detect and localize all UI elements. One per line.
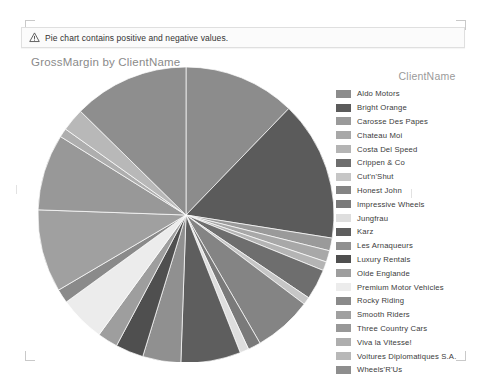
legend-item-label: Honest John xyxy=(357,186,402,195)
legend-swatch-icon xyxy=(336,117,351,125)
pie-chart[interactable] xyxy=(36,66,336,362)
legend-item-label: Les Arnaqueurs xyxy=(357,241,413,250)
legend-item[interactable]: Cut'n'Shut xyxy=(336,170,488,184)
legend-list: Aldo MotorsBright OrangeCarosse Des Pape… xyxy=(336,87,488,377)
legend-swatch-icon xyxy=(336,297,351,305)
legend-swatch-icon xyxy=(336,90,351,98)
legend-swatch-icon xyxy=(336,131,351,139)
legend-item[interactable]: Luxury Rentals xyxy=(336,253,488,267)
legend-swatch-icon xyxy=(336,186,351,194)
legend-item[interactable]: Three Country Cars xyxy=(336,322,488,336)
warning-banner: Pie chart contains positive and negative… xyxy=(21,27,465,48)
legend-item[interactable]: Rocky Riding xyxy=(336,294,488,308)
legend-item[interactable]: Smooth Riders xyxy=(336,308,488,322)
legend-item[interactable]: Carosse Des Papes xyxy=(336,115,488,129)
legend-item-label: Olde Englande xyxy=(357,269,410,278)
legend-swatch-icon xyxy=(336,352,351,360)
legend-swatch-icon xyxy=(336,173,351,181)
legend-item[interactable]: Chateau Moi xyxy=(336,128,488,142)
legend-swatch-icon xyxy=(336,104,351,112)
legend-item-label: Bright Orange xyxy=(357,103,407,112)
legend-item[interactable]: Premium Motor Vehicles xyxy=(336,280,488,294)
legend-item[interactable]: Olde Englande xyxy=(336,266,488,280)
legend-swatch-icon xyxy=(336,338,351,346)
legend-item[interactable]: Les Arnaqueurs xyxy=(336,239,488,253)
crop-mark-bottom-left xyxy=(25,351,35,361)
legend-item-label: Luxury Rentals xyxy=(357,255,410,264)
legend-title: ClientName xyxy=(366,70,488,82)
pie-chart-svg[interactable] xyxy=(36,66,336,362)
legend-item[interactable]: Aldo Motors xyxy=(336,87,488,101)
legend-item[interactable]: Viva la Vitesse! xyxy=(336,335,488,349)
warning-message: Pie chart contains positive and negative… xyxy=(45,33,228,43)
edge-tick-left xyxy=(16,185,17,194)
pie-slice-group[interactable] xyxy=(38,67,334,362)
legend-swatch-icon xyxy=(336,159,351,167)
legend-item[interactable]: Voitures Diplomatiques S.A. xyxy=(336,349,488,363)
legend-item-label: Cut'n'Shut xyxy=(357,172,394,181)
legend-swatch-icon xyxy=(336,283,351,291)
legend-item-label: Chateau Moi xyxy=(357,131,402,140)
legend-item-label: Premium Motor Vehicles xyxy=(357,283,444,292)
legend-item[interactable]: Karz xyxy=(336,225,488,239)
legend: ClientName Aldo MotorsBright OrangeCaros… xyxy=(336,70,488,377)
legend-swatch-icon xyxy=(336,228,351,236)
legend-item-label: Smooth Riders xyxy=(357,310,410,319)
legend-swatch-icon xyxy=(336,366,351,374)
legend-swatch-icon xyxy=(336,324,351,332)
legend-item[interactable]: Jungfrau xyxy=(336,211,488,225)
legend-item[interactable]: Crippen & Co xyxy=(336,156,488,170)
legend-swatch-icon xyxy=(336,311,351,319)
legend-item-label: Jungfrau xyxy=(357,214,388,223)
legend-item-label: Rocky Riding xyxy=(357,296,404,305)
legend-swatch-icon xyxy=(336,145,351,153)
legend-item[interactable]: Costa Del Speed xyxy=(336,142,488,156)
legend-item-label: Impressive Wheels xyxy=(357,200,425,209)
legend-item-label: Crippen & Co xyxy=(357,158,405,167)
legend-swatch-icon xyxy=(336,214,351,222)
legend-item-label: Voitures Diplomatiques S.A. xyxy=(357,352,456,361)
legend-item-label: Carosse Des Papes xyxy=(357,117,428,126)
legend-swatch-icon xyxy=(336,255,351,263)
legend-swatch-icon xyxy=(336,200,351,208)
legend-item[interactable]: Bright Orange xyxy=(336,101,488,115)
legend-item-label: Viva la Vitesse! xyxy=(357,338,412,347)
legend-item-label: Aldo Motors xyxy=(357,89,400,98)
legend-item-label: Wheels'R'Us xyxy=(357,365,402,374)
legend-item[interactable]: Honest John xyxy=(336,184,488,198)
legend-item-label: Three Country Cars xyxy=(357,324,427,333)
legend-item[interactable]: Impressive Wheels xyxy=(336,197,488,211)
legend-item-label: Karz xyxy=(357,227,373,236)
warning-triangle-icon xyxy=(29,32,40,43)
legend-swatch-icon xyxy=(336,242,351,250)
legend-item-label: Costa Del Speed xyxy=(357,145,417,154)
legend-swatch-icon xyxy=(336,269,351,277)
legend-item[interactable]: Wheels'R'Us xyxy=(336,363,488,377)
